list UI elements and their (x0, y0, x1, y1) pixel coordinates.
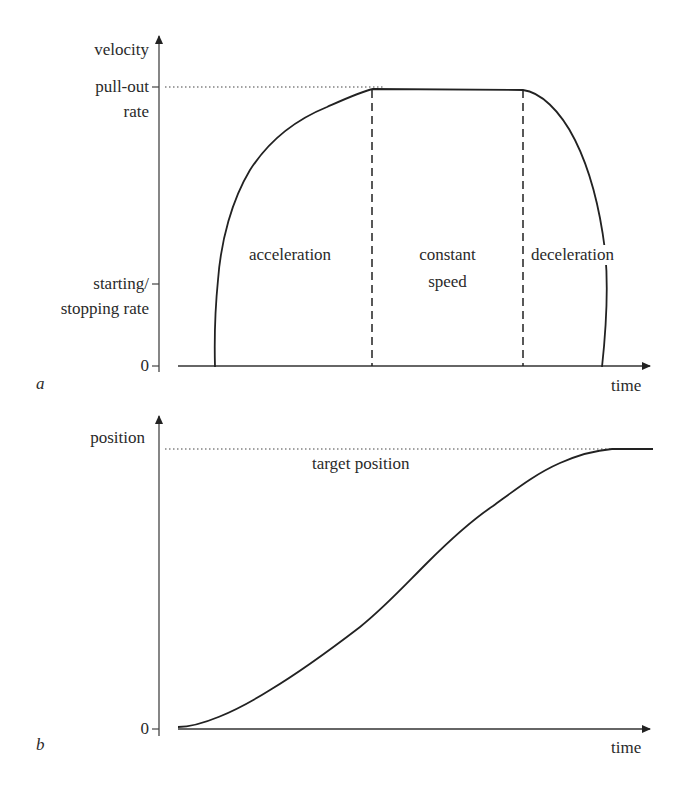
velocity-curve (215, 89, 607, 367)
tick-label-rate: rate (124, 102, 149, 122)
region-label-speed: speed (372, 272, 523, 292)
position-curve (178, 449, 653, 727)
y-axis-label-position: position (90, 428, 145, 448)
panel-tag-a: a (36, 374, 45, 394)
region-label-acceleration: acceleration (249, 245, 331, 265)
tick-label-stopping-rate: stopping rate (61, 299, 149, 319)
tick-label-zero-b: 0 (141, 719, 150, 739)
tick-label-zero-a: 0 (141, 356, 150, 376)
tick-label-starting: starting/ (93, 274, 149, 294)
panel-a-axes (152, 36, 650, 372)
x-axis-label-time-a: time (611, 376, 641, 396)
region-label-constant: constant (372, 245, 523, 265)
y-axis-label-velocity: velocity (94, 40, 149, 60)
annotation-target-position: target position (312, 454, 409, 474)
region-label-deceleration: deceleration (530, 245, 615, 265)
panel-tag-b: b (36, 735, 45, 755)
diagram-canvas (0, 0, 690, 789)
x-axis-label-time-b: time (611, 738, 641, 758)
tick-label-pull-out: pull-out (95, 77, 149, 97)
